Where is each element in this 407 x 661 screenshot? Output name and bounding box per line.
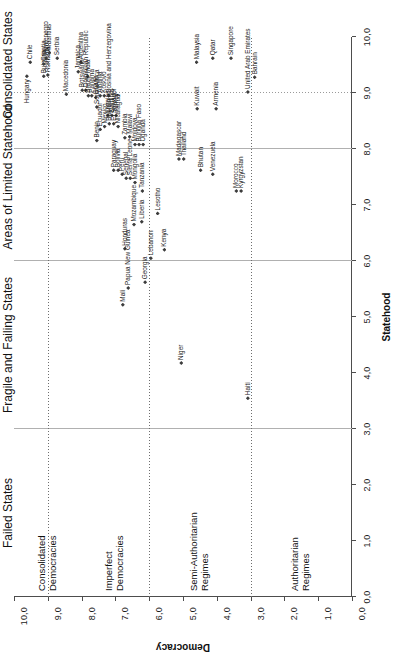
- data-point-marker: [140, 220, 144, 224]
- democracy-region-label: Semi-AuthoritarianRegimes: [189, 512, 211, 591]
- data-point-label: Qatar: [209, 39, 216, 55]
- data-point-marker: [229, 56, 233, 60]
- x-tick-mark: [352, 372, 356, 373]
- data-point-marker: [156, 211, 160, 215]
- y-tick-mark: [352, 597, 353, 601]
- data-point-marker: [143, 280, 147, 284]
- data-point-label: Papua New Guinea: [124, 229, 131, 284]
- vertical-region-divider: [14, 260, 352, 261]
- data-point-label: Kuwait: [193, 87, 200, 106]
- data-point-marker: [246, 396, 250, 400]
- data-point-marker: [126, 286, 130, 290]
- x-axis-line: [351, 37, 352, 597]
- x-tick-label: 5,0: [362, 310, 372, 323]
- data-point-marker: [211, 172, 215, 176]
- horizontal-reference-line: [149, 37, 150, 597]
- y-tick-label: 0,0: [357, 594, 367, 607]
- scatter-plot-area: 0,01,02,03,04,05,06,07,08,09,010,0 0,01,…: [14, 37, 352, 597]
- data-point-marker: [124, 176, 128, 180]
- y-tick-label: 6,0: [154, 594, 164, 607]
- y-tick-mark: [217, 597, 218, 601]
- y-tick-mark: [251, 597, 252, 601]
- y-tick-mark: [183, 597, 184, 601]
- y-tick-mark: [284, 597, 285, 601]
- x-tick-label: 2,0: [362, 478, 372, 491]
- y-tick-mark: [82, 597, 83, 601]
- x-tick-label: 4,0: [362, 366, 372, 379]
- data-point-marker: [179, 361, 183, 365]
- data-point-label: Singapore: [227, 26, 234, 55]
- x-tick-label: 8,0: [362, 142, 372, 155]
- data-point-marker: [95, 139, 99, 143]
- data-point-label: Lesotho: [154, 188, 161, 211]
- data-point-marker: [46, 73, 50, 77]
- data-point-marker: [162, 248, 166, 252]
- chart-canvas: 0,01,02,03,04,05,06,07,08,09,010,0 0,01,…: [0, 0, 407, 661]
- y-tick-label: 3,0: [256, 594, 266, 607]
- vertical-region-divider: [14, 428, 352, 429]
- statehood-region-label: Consolidated States: [2, 11, 15, 118]
- data-point-marker: [140, 189, 144, 193]
- data-point-marker: [199, 168, 203, 172]
- data-point-label: Serbia: [53, 37, 60, 55]
- data-point-marker: [239, 189, 243, 193]
- y-tick-label: 9,0: [53, 594, 63, 607]
- x-axis-title: Statehood: [381, 293, 392, 342]
- data-point-marker: [234, 189, 238, 193]
- vertical-reference-line: [14, 92, 352, 93]
- x-tick-label: 1,0: [362, 534, 372, 547]
- statehood-region-label: Failed States: [2, 478, 15, 548]
- x-tick-mark: [352, 484, 356, 485]
- data-point-marker: [133, 143, 137, 147]
- y-tick-label: 7,0: [120, 594, 130, 607]
- x-tick-label: 9,0: [362, 86, 372, 99]
- data-point-marker: [195, 60, 199, 64]
- x-tick-mark: [352, 260, 356, 261]
- data-point-marker: [195, 107, 199, 111]
- data-point-marker: [137, 143, 141, 147]
- data-point-label: Kyrgyzstan: [237, 156, 244, 188]
- x-tick-mark: [352, 36, 356, 37]
- democracy-region-label: ImperfectDemocracies: [104, 536, 126, 591]
- data-point-marker: [211, 56, 215, 60]
- y-tick-label: 4,0: [222, 594, 232, 607]
- data-point-marker: [25, 74, 29, 78]
- statehood-region-label: Fragile and Failing States: [2, 277, 15, 413]
- x-tick-mark: [352, 428, 356, 429]
- data-point-label: Bosnia and Herzegovina: [105, 23, 112, 93]
- data-point-label: Malaysia: [193, 34, 200, 59]
- data-point-marker: [42, 74, 46, 78]
- x-tick-mark: [352, 316, 356, 317]
- y-tick-label: 1,0: [323, 594, 333, 607]
- data-point-label: South Africa: [93, 70, 100, 104]
- data-point-marker: [107, 122, 111, 126]
- y-tick-mark: [149, 597, 150, 601]
- y-tick-label: 8,0: [87, 594, 97, 607]
- data-point-label: Venezuela: [209, 141, 216, 171]
- y-tick-mark: [14, 597, 15, 601]
- data-point-label: Haiti: [244, 382, 251, 395]
- data-point-label: Mongolia: [131, 154, 138, 180]
- data-point-label: Mali: [119, 290, 126, 302]
- data-point-marker: [112, 168, 116, 172]
- statehood-region-label: Areas of Limited Statehood: [2, 105, 15, 250]
- x-tick-label: 3,0: [362, 422, 372, 435]
- data-point-marker: [214, 107, 218, 111]
- horizontal-reference-line: [251, 37, 252, 597]
- data-point-label: Mozambique: [130, 185, 137, 222]
- x-tick-label: 7,0: [362, 198, 372, 211]
- data-point-marker: [132, 223, 136, 227]
- data-point-label: Liberia: [138, 200, 145, 219]
- data-point-label: Uganda: [139, 119, 146, 141]
- data-point-label: Lebanon: [147, 230, 154, 255]
- data-point-marker: [55, 56, 59, 60]
- data-point-label: Macedonia: [62, 60, 69, 91]
- data-point-label: Tanzania: [138, 162, 145, 188]
- y-axis-title: Democracy: [156, 642, 210, 653]
- data-point-marker: [121, 303, 125, 307]
- data-point-marker: [246, 90, 250, 94]
- data-point-label: Chile: [26, 45, 33, 60]
- democracy-region-label: ConsolidatedDemocracies: [37, 536, 59, 591]
- y-tick-mark: [115, 597, 116, 601]
- data-point-marker: [177, 157, 181, 161]
